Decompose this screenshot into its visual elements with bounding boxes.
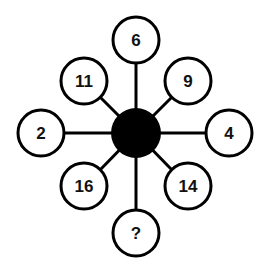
node-label: 2 [36, 124, 45, 143]
node-left: 2 [18, 110, 64, 156]
puzzle-diagram: 6 9 4 14 ? 16 2 11 [0, 0, 273, 278]
node-label: 4 [224, 124, 234, 143]
node-label: 16 [75, 177, 94, 196]
node-label: 11 [75, 72, 93, 91]
center-hub [111, 108, 161, 158]
node-top-right: 9 [165, 58, 211, 104]
node-label-unknown: ? [131, 224, 141, 243]
node-top: 6 [113, 17, 159, 63]
node-label: 9 [183, 72, 192, 91]
node-label: 14 [179, 177, 198, 196]
node-label: 6 [131, 31, 140, 50]
node-bottom: ? [113, 210, 159, 256]
node-bottom-right: 14 [165, 163, 211, 209]
node-top-left: 11 [61, 58, 107, 104]
node-bottom-left: 16 [61, 163, 107, 209]
node-right: 4 [206, 110, 252, 156]
